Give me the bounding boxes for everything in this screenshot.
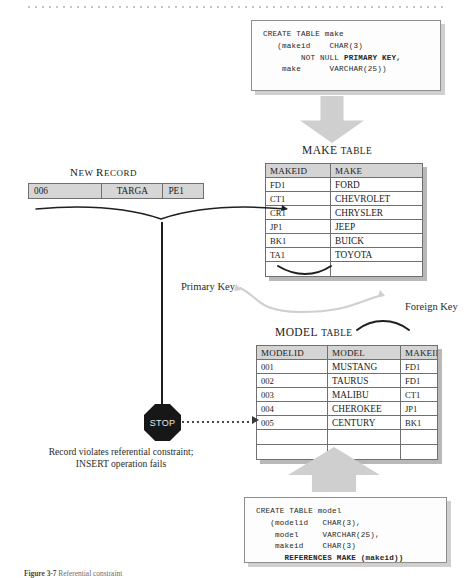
new-record-caption-ecord: ECORD <box>104 168 137 178</box>
cell-make: CHEVROLET <box>331 192 423 206</box>
table-row: 003MALIBUCT1 <box>257 388 438 402</box>
new-record-caption-r: R <box>96 166 104 178</box>
table-row-empty <box>257 430 438 445</box>
make-ddl-line-3: NOT NULL <box>263 54 344 62</box>
table-row-empty <box>266 262 423 277</box>
cell-makeid: BK1 <box>266 234 331 248</box>
foreign-key-brace <box>357 321 409 330</box>
cell-modelid: 004 <box>257 402 328 416</box>
cell-modelid: 001 <box>257 360 328 374</box>
error-line-2: INSERT operation fails <box>14 458 228 470</box>
key-relationship-curve <box>240 288 383 312</box>
model-ddl-line-2: (modelid CHAR(3), <box>256 519 361 527</box>
error-message: Record violates referential constraint; … <box>14 446 228 471</box>
cell-makeid: BK1 <box>401 416 438 430</box>
make-col-makeid: MAKEID <box>266 164 331 178</box>
record-stem <box>161 222 163 406</box>
cell-makeid: JP1 <box>266 220 331 234</box>
stop-sign-icon: STOP <box>144 404 181 441</box>
model-col-makeid: MAKEID <box>401 346 438 360</box>
table-row: 005CENTURYBK1 <box>257 416 438 430</box>
new-record-makeid: PE1 <box>163 184 203 198</box>
cell-empty <box>401 445 438 460</box>
create-table-model-sql: CREATE TABLE model (modelid CHAR(3), mod… <box>244 497 447 563</box>
cell-model: CENTURY <box>328 416 401 430</box>
make-table: MAKEID MAKE FD1FORD CT1CHEVROLET CR1CHRY… <box>265 163 423 277</box>
cell-modelid: 003 <box>257 388 328 402</box>
model-ddl-line-4: makeid CHAR(3) <box>256 542 356 550</box>
table-row: 004CHEROKEEJP1 <box>257 402 438 416</box>
foreign-key-label: Foreign Key <box>405 301 458 312</box>
new-record-model: TARGA <box>102 184 163 198</box>
cell-model: MALIBU <box>328 388 401 402</box>
new-record-caption: NEW RECORD <box>70 166 137 178</box>
make-col-make: MAKE <box>331 164 423 178</box>
table-row: BK1BUICK <box>266 234 423 248</box>
make-caption-table-word: TABLE <box>341 146 372 156</box>
table-row: 002TAURUSFD1 <box>257 374 438 388</box>
cell-makeid: CT1 <box>266 192 331 206</box>
cell-empty <box>257 445 328 460</box>
new-record-row: 006 TARGA PE1 <box>28 183 204 199</box>
new-record-caption-ew: EW <box>78 168 96 178</box>
create-table-make-sql: CREATE TABLE make (makeid CHAR(3) NOT NU… <box>251 20 441 91</box>
cell-make: FORD <box>331 178 423 192</box>
model-ddl-line-3: model VARCHAR(25), <box>256 531 380 539</box>
figure-caption-text: Referential constraint <box>58 569 122 578</box>
model-table: MODELID MODEL MAKEID 001MUSTANGFD1 002TA… <box>256 345 438 460</box>
cell-make: JEEP <box>331 220 423 234</box>
make-ddl-line-2: (makeid CHAR(3) <box>263 42 363 50</box>
cell-makeid: CR1 <box>266 206 331 220</box>
table-row: 001MUSTANGFD1 <box>257 360 438 374</box>
table-row: JP1JEEP <box>266 220 423 234</box>
cell-modelid: 005 <box>257 416 328 430</box>
cell-model: MUSTANG <box>328 360 401 374</box>
cell-empty <box>266 262 331 277</box>
cell-make: CHRYSLER <box>331 206 423 220</box>
cell-makeid: FD1 <box>266 178 331 192</box>
blocked-insert-arrowhead <box>252 416 259 424</box>
cell-empty <box>401 430 438 445</box>
model-table-caption: MODEL TABLE <box>275 326 352 338</box>
make-table-body: FD1FORD CT1CHEVROLET CR1CHRYSLER JP1JEEP… <box>266 178 423 277</box>
foreign-key-arrowhead <box>378 290 385 297</box>
cell-make: TOYOTA <box>331 248 423 262</box>
new-record-brace <box>36 207 286 219</box>
model-col-model: MODEL <box>328 346 401 360</box>
model-ddl-references: REFERENCES MAKE (makeid)) <box>285 554 404 562</box>
figure-caption: Figure 3-7 Referential constraint <box>24 569 464 578</box>
table-row: CT1CHEVROLET <box>266 192 423 206</box>
model-ddl-line-1: CREATE TABLE model <box>256 507 342 515</box>
primary-key-arrowhead <box>234 284 241 291</box>
make-ddl-line-4: make VARCHAR(25)) <box>263 65 387 73</box>
make-ddl-line-1: CREATE TABLE make <box>263 30 344 38</box>
cell-model: TAURUS <box>328 374 401 388</box>
cell-makeid: CT1 <box>401 388 438 402</box>
cell-empty <box>257 430 328 445</box>
cell-empty <box>328 430 401 445</box>
cell-make: BUICK <box>331 234 423 248</box>
stop-sign-label: STOP <box>150 418 176 428</box>
cell-model: CHEROKEE <box>328 402 401 416</box>
table-row: CR1CHRYSLER <box>266 206 423 220</box>
cell-modelid: 002 <box>257 374 328 388</box>
cell-makeid: FD1 <box>401 374 438 388</box>
figure-canvas: CREATE TABLE make (makeid CHAR(3) NOT NU… <box>0 0 475 578</box>
model-col-modelid: MODELID <box>257 346 328 360</box>
table-row: FD1FORD <box>266 178 423 192</box>
blocked-insert-dotted-line <box>182 421 255 423</box>
make-table-header-row: MAKEID MAKE <box>266 164 423 178</box>
top-dotted-rule <box>28 6 448 8</box>
model-table-body: 001MUSTANGFD1 002TAURUSFD1 003MALIBUCT1 … <box>257 360 438 460</box>
primary-key-label: Primary Key <box>181 281 235 292</box>
model-caption-table-word: TABLE <box>321 328 352 338</box>
cell-makeid: JP1 <box>401 402 438 416</box>
model-table-header-row: MODELID MODEL MAKEID <box>257 346 438 360</box>
model-caption-main: MODEL <box>275 326 318 338</box>
cell-makeid: FD1 <box>401 360 438 374</box>
make-table-caption: MAKE TABLE <box>302 144 372 156</box>
new-record-modelid: 006 <box>29 184 102 198</box>
table-row: TA1TOYOTA <box>266 248 423 262</box>
error-line-1: Record violates referential constraint; <box>14 446 228 458</box>
down-block-arrow <box>300 96 364 143</box>
